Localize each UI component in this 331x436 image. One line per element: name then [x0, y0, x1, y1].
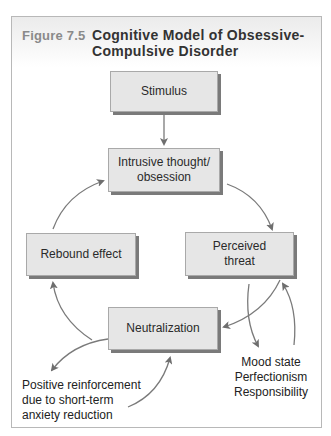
node-perceived-threat: Perceived threat	[185, 232, 294, 276]
arrow-rebound-to-intrusive	[53, 181, 103, 229]
annotation-factor-mood: Mood state	[232, 355, 310, 370]
arrow-neutralization-to-reinforcement	[52, 339, 108, 370]
node-rebound-label: Rebound effect	[40, 247, 121, 262]
annotation-reinforcement-line-1: Positive reinforcement	[22, 378, 141, 393]
node-neutralization-label: Neutralization	[126, 321, 199, 336]
node-intrusive-label-2: obsession	[137, 170, 191, 185]
annotation-factor-responsibility: Responsibility	[232, 385, 310, 400]
arrow-neutralization-to-rebound	[53, 283, 92, 340]
node-neutralization: Neutralization	[108, 307, 218, 350]
node-perceived-label-1: Perceived	[213, 239, 266, 254]
arrow-perceived-to-neutralization	[224, 280, 280, 327]
node-stimulus: Stimulus	[110, 71, 218, 112]
node-perceived-label-2: threat	[224, 254, 255, 269]
node-intrusive-label-1: Intrusive thought/	[118, 155, 210, 170]
annotation-factors: Mood state Perfectionism Responsibility	[232, 355, 310, 400]
annotation-reinforcement-line-2: due to short-term	[22, 393, 141, 408]
node-rebound-effect: Rebound effect	[26, 233, 136, 276]
node-stimulus-label: Stimulus	[141, 84, 187, 99]
annotation-factor-perfectionism: Perfectionism	[232, 370, 310, 385]
annotation-reinforcement: Positive reinforcement due to short-term…	[22, 378, 141, 423]
annotation-reinforcement-line-3: anxiety reduction	[22, 408, 141, 423]
arrow-factors-to-perceived	[283, 284, 295, 345]
node-intrusive-thought: Intrusive thought/ obsession	[108, 148, 220, 192]
arrow-intrusive-to-perceived	[227, 184, 272, 229]
